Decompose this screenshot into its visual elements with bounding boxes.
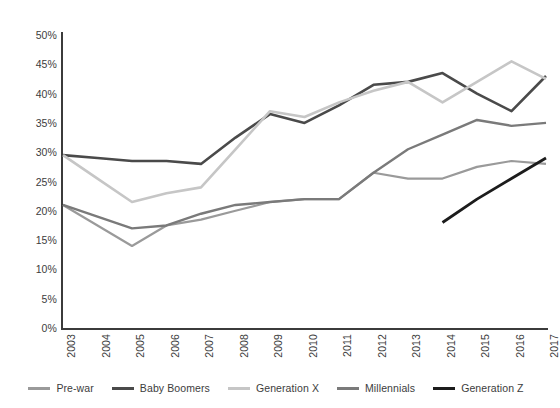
series-line: [63, 73, 546, 164]
legend-label: Pre-war: [56, 382, 93, 394]
x-tick-label: 2016: [514, 334, 526, 358]
legend-item[interactable]: Baby Boomers: [112, 382, 210, 394]
x-tick-label: 2007: [203, 334, 215, 358]
x-tick-label: 2010: [307, 334, 319, 358]
legend-swatch: [433, 387, 455, 390]
x-tick-label: 2004: [100, 334, 112, 358]
legend-swatch: [228, 387, 250, 390]
legend-swatch: [28, 387, 50, 390]
legend-label: Generation Z: [461, 382, 523, 394]
series-line: [63, 61, 546, 202]
x-tick-label: 2014: [445, 334, 457, 358]
legend-label: Generation X: [256, 382, 319, 394]
series-line: [63, 120, 546, 228]
x-axis-labels: 2003200420052006200720082009201020112012…: [61, 332, 548, 372]
x-tick-label: 2008: [238, 334, 250, 358]
x-tick-label: 2005: [134, 334, 146, 358]
legend-label: Millennials: [365, 382, 415, 394]
legend-item[interactable]: Generation Z: [433, 382, 523, 394]
x-tick-label: 2011: [341, 334, 353, 357]
x-tick-label: 2003: [65, 334, 77, 358]
x-tick-label: 2009: [272, 334, 284, 358]
legend-item[interactable]: Pre-war: [28, 382, 93, 394]
legend-swatch: [337, 387, 359, 390]
x-tick-label: 2013: [410, 334, 422, 358]
x-tick-label: 2012: [376, 334, 388, 358]
x-tick-label: 2017: [548, 334, 560, 358]
legend-item[interactable]: Millennials: [337, 382, 415, 394]
x-tick-label: 2015: [479, 334, 491, 358]
x-tick-label: 2006: [169, 334, 181, 358]
legend-swatch: [112, 387, 134, 390]
series-line: [443, 158, 547, 222]
series-line: [63, 161, 546, 246]
legend-label: Baby Boomers: [140, 382, 210, 394]
chart-legend: Pre-warBaby BoomersGeneration XMillennia…: [0, 376, 552, 400]
legend-item[interactable]: Generation X: [228, 382, 319, 394]
